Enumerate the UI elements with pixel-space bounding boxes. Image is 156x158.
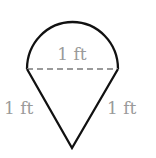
right-side-label: 1 ft — [107, 98, 137, 118]
diameter-label: 1 ft — [57, 44, 87, 64]
triangle-sides — [27, 69, 118, 148]
cone-diagram: 1 ft 1 ft 1 ft — [0, 0, 156, 158]
left-side-label: 1 ft — [4, 98, 34, 118]
